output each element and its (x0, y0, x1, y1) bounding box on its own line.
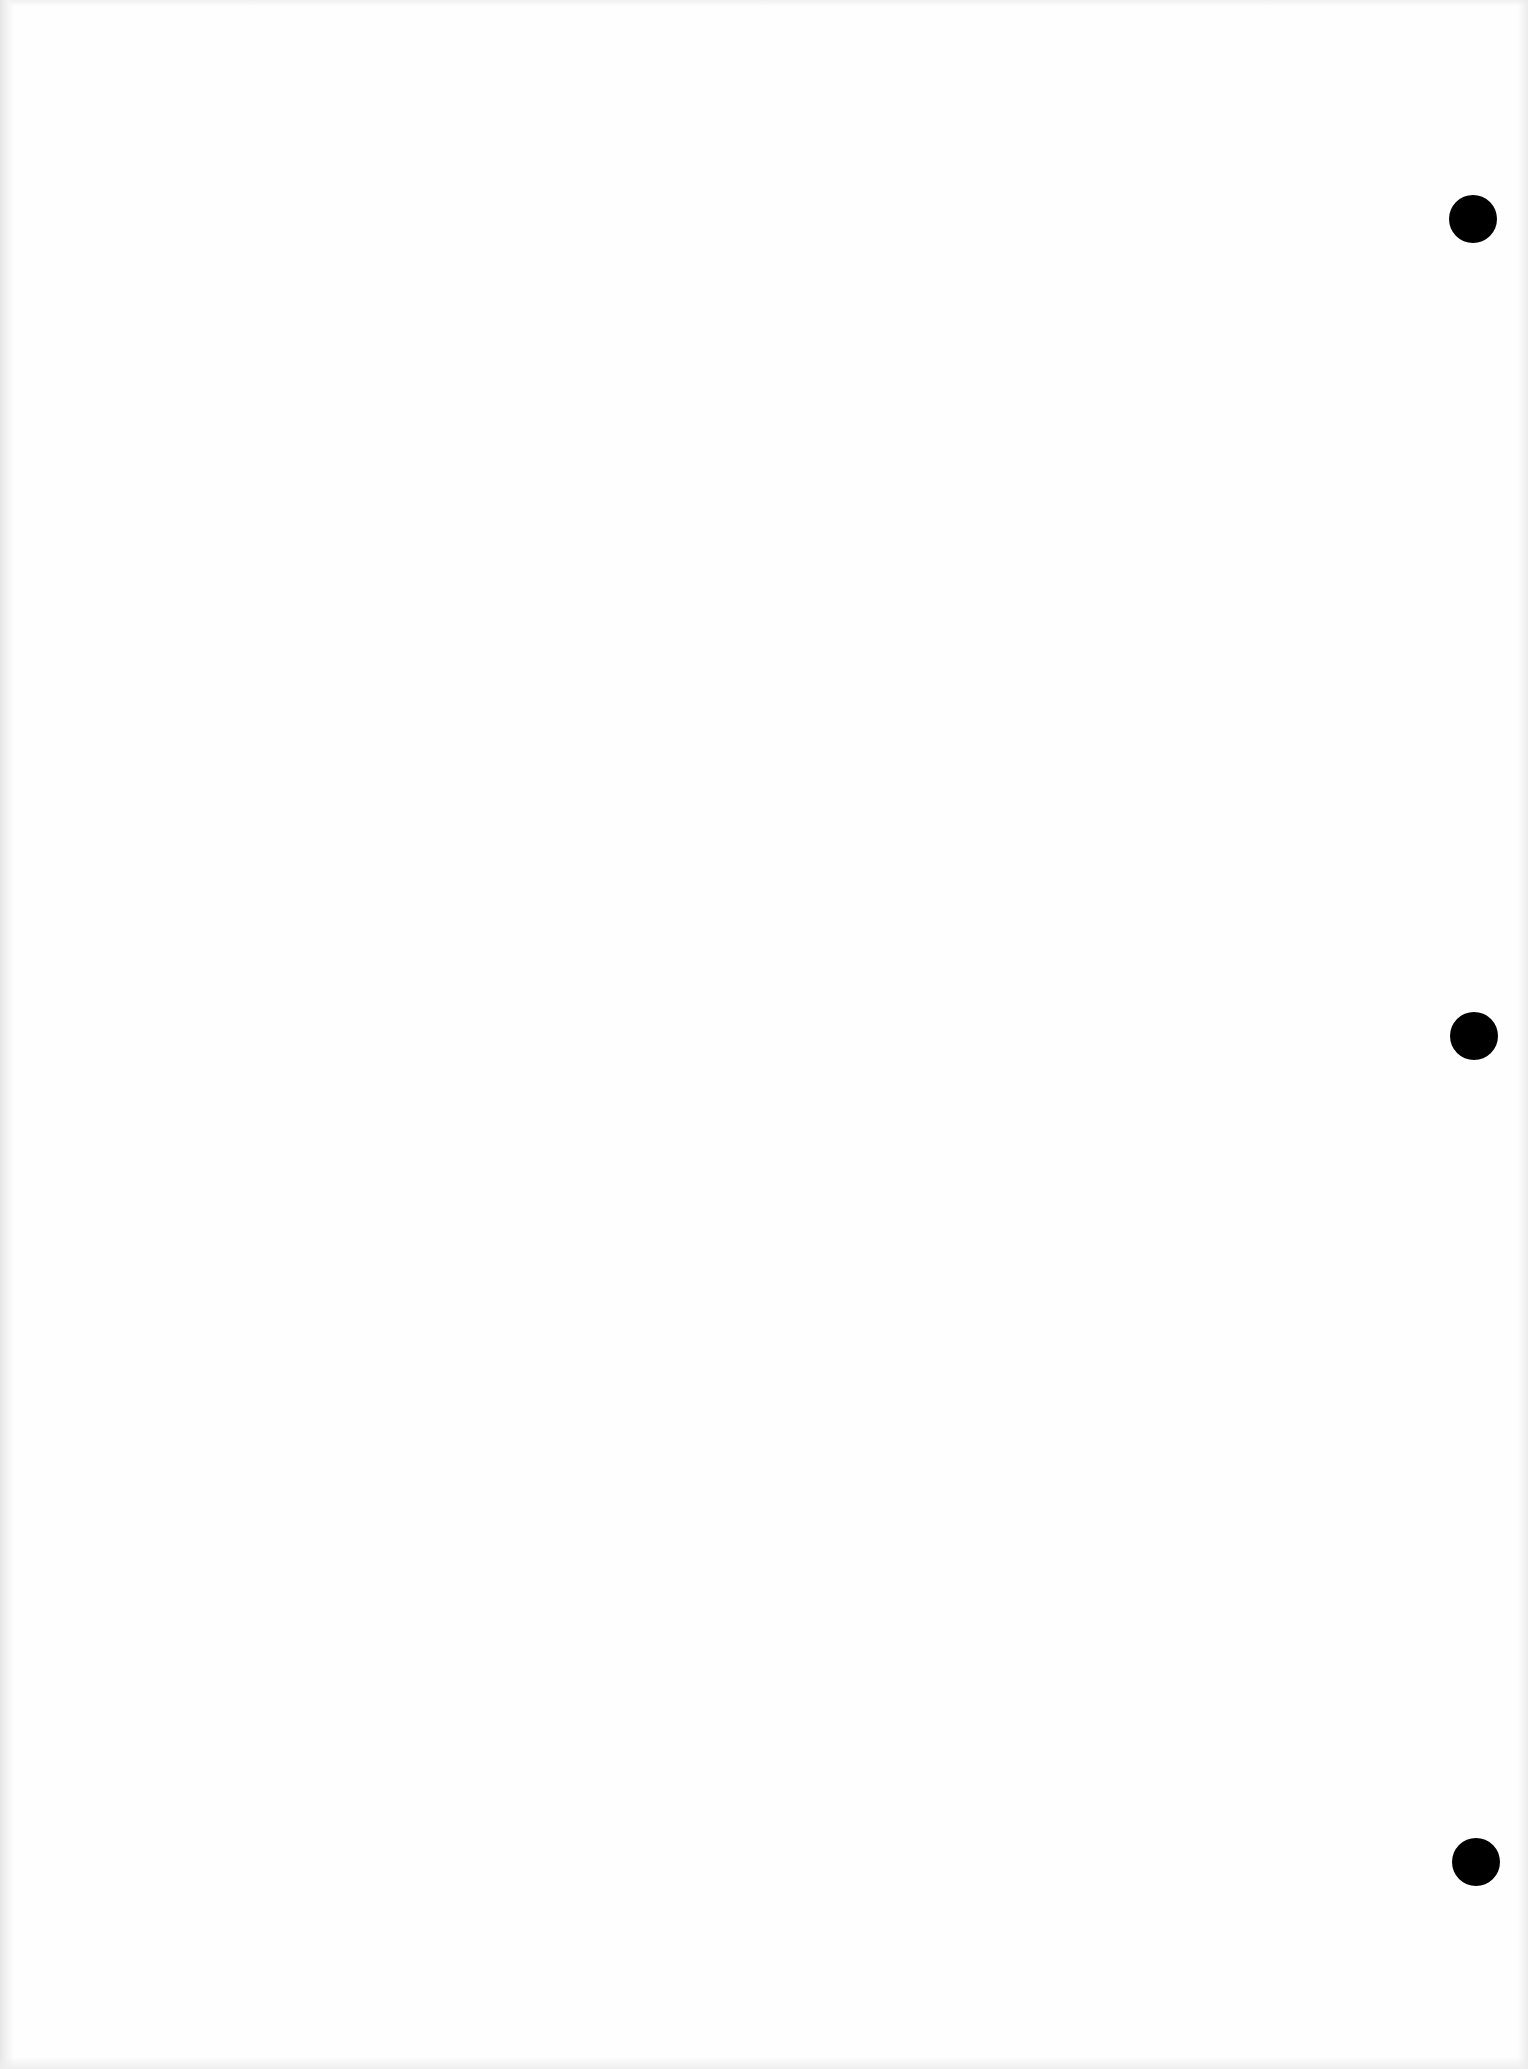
page-edge-right (1518, 0, 1528, 2069)
blank-page (0, 0, 1528, 2069)
page-edge-top (0, 0, 1528, 6)
page-edge-left (0, 0, 14, 2069)
punch-hole-top (1449, 195, 1497, 243)
punch-hole-bottom (1452, 1838, 1500, 1886)
page-edge-bottom (0, 2057, 1528, 2069)
punch-hole-middle (1450, 1012, 1498, 1060)
